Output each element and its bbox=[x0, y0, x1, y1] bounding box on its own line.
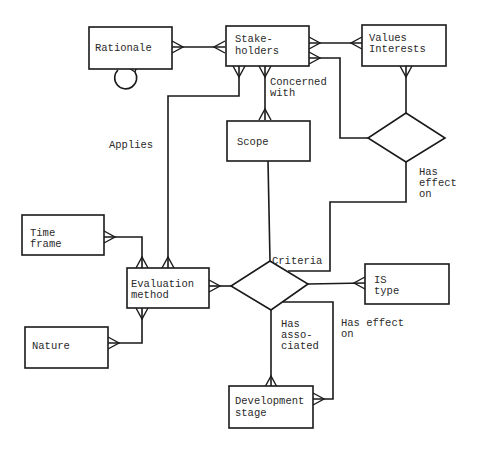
entity-evaluation-method: Evaluation method bbox=[127, 268, 209, 308]
entity-devstage-label-1: Development bbox=[235, 395, 304, 407]
connector-values-diamond1 bbox=[400, 66, 412, 113]
entity-development-stage: Development stage bbox=[229, 386, 313, 428]
label-has-effect-on-stage-2: on bbox=[341, 328, 354, 340]
connector-timeframe-evaluation bbox=[104, 231, 148, 268]
entity-devstage-label-2: stage bbox=[235, 407, 267, 419]
label-applies: Applies bbox=[109, 139, 153, 151]
connector-stakeholders-diamond1 bbox=[309, 52, 368, 138]
entity-is-type: IS type bbox=[365, 264, 449, 304]
entity-stakeholders: Stake- holders bbox=[226, 26, 309, 66]
entity-values-interests: Values Interests bbox=[362, 25, 446, 66]
entity-istype-label-2: type bbox=[374, 285, 399, 297]
entity-scope-label: Scope bbox=[237, 136, 269, 148]
connector-rationale-stakeholders bbox=[172, 41, 225, 53]
entity-stakeholders-label-1: Stake- bbox=[235, 33, 273, 45]
entity-nature: Nature bbox=[25, 327, 108, 368]
entity-scope: Scope bbox=[227, 121, 310, 161]
label-concerned-with-2: with bbox=[270, 87, 295, 99]
label-has-associated-3: ciated bbox=[281, 340, 319, 352]
entity-time-frame: Time frame bbox=[22, 215, 104, 255]
connector-stakeholders-evaluation bbox=[162, 66, 245, 268]
relationship-diamond-has-effect-on bbox=[368, 113, 445, 162]
entity-stakeholders-label-2: holders bbox=[235, 45, 279, 57]
connector-evaluation-criteria bbox=[209, 280, 231, 292]
connector-nature-evaluation bbox=[108, 308, 148, 349]
er-diagram: Rationale Stake- holders Values Interest… bbox=[0, 0, 477, 450]
connector-scope-criteria bbox=[268, 161, 270, 261]
connector-criteria-istype bbox=[308, 277, 365, 289]
connector-criteria-devstage bbox=[265, 310, 277, 387]
label-criteria: Criteria bbox=[272, 255, 322, 267]
connector-stakeholders-values bbox=[309, 37, 362, 49]
entity-rationale-label: Rationale bbox=[95, 42, 152, 54]
entity-rationale: Rationale bbox=[89, 27, 172, 69]
entity-timeframe-label-2: frame bbox=[30, 238, 62, 250]
entity-nature-label: Nature bbox=[32, 340, 70, 352]
entity-values-label-2: Interests bbox=[369, 43, 426, 55]
label-has-effect-on-3: on bbox=[419, 188, 432, 200]
entity-evaluation-label-2: method bbox=[131, 289, 169, 301]
